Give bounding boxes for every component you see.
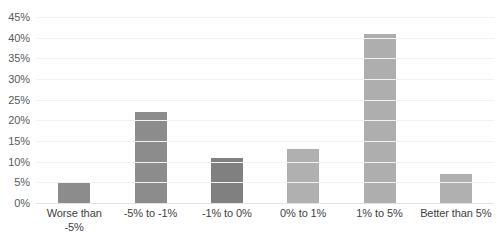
gridline (36, 203, 494, 204)
bar-chart: 0%5%10%15%20%25%30%35%40%45% Worse than … (0, 0, 501, 249)
bar (287, 149, 319, 203)
gridline (36, 182, 494, 183)
y-axis-tick-label: 20% (8, 114, 30, 126)
x-axis-tick-label: -1% to 0% (189, 206, 265, 220)
x-axis-tick-label: 1% to 5% (341, 206, 417, 220)
x-axis: Worse than -5%-5% to -1%-1% to 0%0% to 1… (36, 206, 494, 249)
y-axis-tick-label: 10% (8, 156, 30, 168)
bar-series (36, 17, 494, 203)
y-axis-tick-label: 25% (8, 94, 30, 106)
x-axis-tick-label: 0% to 1% (265, 206, 341, 220)
bar (58, 182, 90, 203)
y-axis-tick-label: 5% (14, 176, 30, 188)
gridline (36, 38, 494, 39)
bar (135, 112, 167, 203)
x-axis-tick-label: Worse than -5% (36, 206, 112, 234)
bar (440, 174, 472, 203)
y-axis-tick-label: 0% (14, 197, 30, 209)
gridline (36, 100, 494, 101)
gridline (36, 162, 494, 163)
gridline (36, 79, 494, 80)
plot-area (36, 17, 494, 203)
y-axis-tick-label: 35% (8, 52, 30, 64)
y-axis-tick-label: 45% (8, 11, 30, 23)
gridline (36, 58, 494, 59)
y-axis-tick-label: 30% (8, 73, 30, 85)
bar (211, 158, 243, 203)
y-axis: 0%5%10%15%20%25%30%35%40%45% (0, 0, 34, 220)
gridline (36, 17, 494, 18)
x-axis-tick-label: -5% to -1% (112, 206, 188, 220)
y-axis-tick-label: 15% (8, 135, 30, 147)
gridline (36, 120, 494, 121)
gridline (36, 141, 494, 142)
y-axis-tick-label: 40% (8, 32, 30, 44)
x-axis-tick-label: Better than 5% (418, 206, 494, 220)
